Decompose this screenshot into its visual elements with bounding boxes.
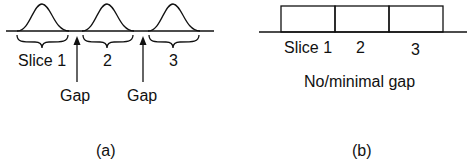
caption-b: (b) [352, 143, 372, 159]
label-slice-3-a: 3 [169, 53, 178, 69]
caption-a: (a) [96, 143, 116, 159]
label-slice-2-a: 2 [103, 53, 112, 69]
arrowhead-1 [74, 36, 81, 45]
label-gap-2: Gap [127, 88, 157, 104]
brace-slice-2 [83, 35, 133, 48]
arrowhead-2 [140, 36, 147, 45]
brace-slice-1 [17, 35, 68, 48]
slice-block-2 [335, 6, 389, 32]
note-no-gap: No/minimal gap [304, 74, 415, 90]
label-slice-1-a: Slice 1 [18, 53, 66, 69]
slice-block-3 [389, 6, 443, 32]
profile-slice-1 [17, 4, 69, 31]
profile-slice-2 [82, 4, 134, 31]
slice-block-1 [281, 6, 335, 32]
label-slice-1-b: Slice 1 [284, 40, 332, 56]
label-gap-1: Gap [60, 88, 90, 104]
profile-slice-3 [148, 4, 200, 31]
label-slice-2-b: 2 [356, 40, 365, 56]
brace-slice-3 [149, 35, 199, 48]
label-slice-3-b: 3 [411, 42, 420, 58]
